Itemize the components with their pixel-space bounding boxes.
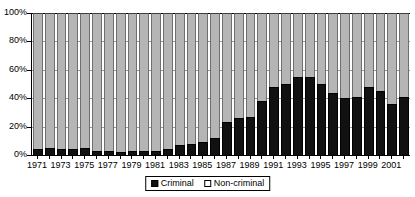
bar-segment-non-criminal[interactable] [210,13,220,138]
x-tick-mark [131,155,132,159]
y-tick-label: 20% [9,122,27,131]
bar-segment-criminal[interactable] [352,97,362,155]
bar-segment-criminal[interactable] [340,98,350,155]
bar-segment-non-criminal[interactable] [80,13,90,148]
bar-segment-non-criminal[interactable] [57,13,67,149]
bar-segment-non-criminal[interactable] [198,13,208,142]
x-tick-mark [49,155,50,159]
bar-column[interactable] [44,13,56,155]
bar-column[interactable] [304,13,316,155]
bar-segment-non-criminal[interactable] [387,13,397,104]
bar-segment-non-criminal[interactable] [257,13,267,101]
x-tick-label: 1993 [287,160,307,170]
bar-segment-non-criminal[interactable] [163,13,173,149]
bar-segment-non-criminal[interactable] [376,13,386,91]
bar-column[interactable] [162,13,174,155]
bar-segment-non-criminal[interactable] [92,13,102,151]
bar-segment-criminal[interactable] [210,138,220,155]
bar-column[interactable] [103,13,115,155]
bar-column[interactable] [186,13,198,155]
bar-column[interactable] [79,13,91,155]
x-tick-mark [368,155,369,159]
bar-column[interactable] [363,13,375,155]
bar-segment-non-criminal[interactable] [340,13,350,98]
bar-column[interactable] [197,13,209,155]
legend-entry[interactable]: Criminal [151,178,194,188]
bar-column[interactable] [91,13,103,155]
bar-column[interactable] [280,13,292,155]
bar-segment-non-criminal[interactable] [234,13,244,118]
x-tick-mark [120,155,121,159]
bar-segment-non-criminal[interactable] [352,13,362,97]
x-tick-mark [403,155,404,159]
bar-column[interactable] [56,13,68,155]
bar-column[interactable] [221,13,233,155]
legend-label: Non-criminal [214,178,265,188]
bar-segment-non-criminal[interactable] [364,13,374,87]
bar-segment-non-criminal[interactable] [151,13,161,151]
bar-segment-criminal[interactable] [317,84,327,155]
bar-column[interactable] [398,13,410,155]
bar-segment-non-criminal[interactable] [68,13,78,149]
bar-column[interactable] [233,13,245,155]
bar-segment-criminal[interactable] [328,93,338,155]
x-tick-mark [167,155,168,159]
bar-segment-non-criminal[interactable] [281,13,291,84]
bar-segment-criminal[interactable] [246,117,256,155]
bar-column[interactable] [127,13,139,155]
bar-segment-criminal[interactable] [376,91,386,155]
bar-segment-non-criminal[interactable] [128,13,138,151]
x-tick-label: 1971 [27,160,47,170]
bar-segment-non-criminal[interactable] [187,13,197,144]
bar-column[interactable] [209,13,221,155]
bar-column[interactable] [292,13,304,155]
bar-segment-criminal[interactable] [222,122,232,155]
bar-segment-non-criminal[interactable] [45,13,55,148]
bar-segment-criminal[interactable] [187,144,197,155]
bar-segment-non-criminal[interactable] [33,13,43,149]
bar-segment-criminal[interactable] [269,87,279,155]
bar-segment-criminal[interactable] [399,97,409,155]
bar-column[interactable] [351,13,363,155]
bar-column[interactable] [386,13,398,155]
bar-column[interactable] [316,13,328,155]
bar-segment-non-criminal[interactable] [399,13,409,97]
bar-column[interactable] [150,13,162,155]
bar-column[interactable] [327,13,339,155]
bar-segment-criminal[interactable] [281,84,291,155]
bar-column[interactable] [115,13,127,155]
bar-segment-criminal[interactable] [257,101,267,155]
bar-column[interactable] [268,13,280,155]
bar-segment-non-criminal[interactable] [293,13,303,77]
bar-segment-criminal[interactable] [234,118,244,155]
bar-column[interactable] [138,13,150,155]
bar-segment-criminal[interactable] [80,148,90,155]
bar-segment-non-criminal[interactable] [222,13,232,122]
bar-segment-criminal[interactable] [45,148,55,155]
bar-segment-criminal[interactable] [198,142,208,155]
bar-column[interactable] [375,13,387,155]
bar-column[interactable] [339,13,351,155]
bar-segment-non-criminal[interactable] [104,13,114,151]
bar-segment-non-criminal[interactable] [328,13,338,93]
bar-segment-criminal[interactable] [305,77,315,155]
bar-segment-criminal[interactable] [175,145,185,155]
bar-column[interactable] [174,13,186,155]
bar-column[interactable] [67,13,79,155]
x-tick-label: 1991 [263,160,283,170]
x-tick-mark [61,155,62,159]
bar-segment-criminal[interactable] [364,87,374,155]
bar-segment-non-criminal[interactable] [317,13,327,84]
bar-column[interactable] [245,13,257,155]
bar-segment-criminal[interactable] [387,104,397,155]
bar-segment-criminal[interactable] [293,77,303,155]
bar-segment-non-criminal[interactable] [246,13,256,117]
bar-segment-non-criminal[interactable] [116,13,126,152]
legend-entry[interactable]: Non-criminal [204,178,265,188]
bar-segment-non-criminal[interactable] [269,13,279,87]
bar-segment-non-criminal[interactable] [305,13,315,77]
bar-segment-non-criminal[interactable] [139,13,149,151]
bar-segment-non-criminal[interactable] [175,13,185,145]
bar-column[interactable] [32,13,44,155]
bar-column[interactable] [256,13,268,155]
